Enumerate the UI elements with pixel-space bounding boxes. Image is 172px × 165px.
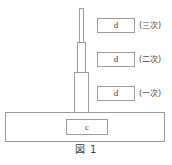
stage-row-primary: d (一次) bbox=[97, 86, 161, 101]
figure-caption: 図 1 bbox=[0, 145, 172, 155]
mast-section-upper bbox=[79, 8, 84, 44]
component-box-d-tertiary: d bbox=[97, 18, 135, 33]
component-box-d-primary: d bbox=[97, 86, 135, 101]
component-box-d-secondary-label: d bbox=[114, 55, 119, 64]
component-box-c-label: c bbox=[85, 123, 89, 132]
stage-label-tertiary: (三次) bbox=[139, 22, 161, 30]
component-box-c: c bbox=[66, 119, 108, 135]
component-box-d-primary-label: d bbox=[114, 89, 119, 98]
stage-label-secondary: (二次) bbox=[139, 56, 161, 64]
stage-row-tertiary: d (三次) bbox=[97, 18, 161, 33]
component-box-d-secondary: d bbox=[97, 52, 135, 67]
figure-diagram: c d (三次) d (二次) d (一次) 図 1 bbox=[0, 0, 172, 165]
stage-label-primary: (一次) bbox=[139, 90, 161, 98]
mast-section-lower bbox=[74, 72, 89, 114]
component-box-d-tertiary-label: d bbox=[114, 21, 119, 30]
stage-row-secondary: d (二次) bbox=[97, 52, 161, 67]
mast-section-middle bbox=[77, 42, 86, 74]
